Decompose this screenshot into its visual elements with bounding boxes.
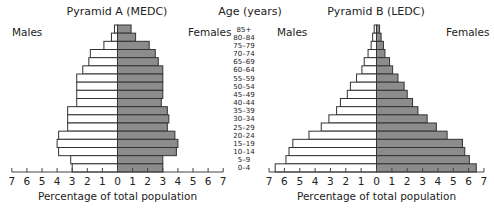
x-tick-label: 1: [129, 175, 136, 187]
x-tick-label: 3: [419, 175, 426, 187]
age-group-label: 85+: [237, 26, 252, 34]
males-label: Males: [277, 26, 307, 38]
male-bar: [90, 50, 117, 58]
male-bar: [347, 90, 376, 98]
male-bar: [293, 139, 377, 147]
female-bar: [377, 139, 463, 147]
age-group-label: 80–84: [233, 34, 255, 42]
male-bar: [111, 33, 117, 41]
age-group-label: 55–59: [233, 75, 254, 83]
age-group-label: 45–49: [233, 91, 254, 99]
female-bar: [118, 131, 175, 139]
male-bar: [59, 131, 118, 139]
x-tick-label: 0: [114, 175, 121, 187]
female-bar: [377, 131, 448, 139]
x-tick-label: 5: [39, 175, 46, 187]
female-bar: [118, 50, 156, 58]
female-bar: [377, 66, 393, 74]
female-bar: [118, 107, 168, 115]
female-bar: [118, 90, 163, 98]
female-bar: [118, 164, 163, 172]
female-bar: [377, 33, 382, 41]
male-bar: [371, 41, 376, 49]
females-label: Females: [446, 26, 489, 38]
age-group-label: 40–44: [233, 99, 255, 107]
female-bar: [118, 115, 169, 123]
x-tick-label: 5: [296, 175, 303, 187]
male-bar: [77, 82, 118, 90]
x-tick-label: 6: [205, 175, 212, 187]
female-bar: [377, 58, 390, 66]
age-axis-title: Age (years): [218, 5, 282, 18]
male-bar: [309, 131, 377, 139]
female-bar: [377, 148, 465, 156]
male-bar: [104, 41, 118, 49]
male-bar: [72, 164, 117, 172]
x-tick-label: 4: [435, 175, 442, 187]
x-tick-label: 7: [220, 175, 227, 187]
age-group-label: 15–19: [233, 140, 254, 148]
x-tick-label: 3: [69, 175, 76, 187]
male-bar: [68, 123, 118, 131]
female-bar: [377, 50, 385, 58]
male-bar: [77, 74, 118, 82]
x-tick-label: 2: [404, 175, 411, 187]
x-tick-label: 5: [450, 175, 457, 187]
age-group-label: 10–14: [233, 148, 255, 156]
male-bar: [368, 50, 376, 58]
female-bar: [377, 156, 470, 164]
male-bar: [59, 148, 118, 156]
pyramid-chart-canvas: Pyramid A (MEDC)MalesFemales765432101234…: [0, 0, 494, 213]
x-tick-label: 7: [8, 175, 15, 187]
age-group-label: 70–74: [233, 50, 255, 58]
female-bar: [118, 123, 168, 131]
age-group-label: 35–39: [233, 107, 254, 115]
male-bar: [350, 82, 376, 90]
females-label: Females: [188, 26, 231, 38]
female-bar: [118, 58, 159, 66]
female-bar: [377, 90, 408, 98]
female-bar: [118, 82, 163, 90]
age-group-label: 50–54: [233, 83, 255, 91]
female-bar: [118, 25, 132, 33]
x-tick-label: 5: [190, 175, 197, 187]
female-bar: [118, 148, 177, 156]
x-axis-title: Percentage of total population: [38, 190, 197, 202]
male-bar: [373, 33, 377, 41]
male-bar: [337, 107, 377, 115]
x-tick-label: 1: [389, 175, 396, 187]
x-tick-label: 0: [373, 175, 380, 187]
age-group-label: 20–24: [233, 132, 255, 140]
male-bar: [321, 123, 376, 131]
female-bar: [377, 74, 398, 82]
male-bar: [289, 148, 376, 156]
x-tick-label: 4: [175, 175, 182, 187]
male-bar: [77, 90, 118, 98]
x-tick-label: 4: [54, 175, 61, 187]
male-bar: [364, 58, 376, 66]
age-group-label: 30–34: [233, 115, 255, 123]
x-tick-label: 2: [84, 175, 91, 187]
male-bar: [68, 115, 118, 123]
age-group-label: 65–69: [233, 58, 254, 66]
female-bar: [377, 25, 380, 33]
x-axis-title: Percentage of total population: [297, 190, 456, 202]
population-pyramids-figure: Pyramid A (MEDC) Pyramid B (LEDC) Age (y…: [0, 0, 494, 213]
pyramid-b-title: Pyramid B (LEDC): [327, 5, 425, 18]
male-bar: [83, 66, 118, 74]
age-group-label: 0–4: [238, 164, 251, 172]
female-bar: [118, 99, 162, 107]
female-bar: [377, 107, 418, 115]
x-tick-label: 7: [481, 175, 488, 187]
x-tick-label: 2: [342, 175, 349, 187]
x-tick-label: 6: [465, 175, 472, 187]
age-group-label: 5–9: [238, 156, 250, 164]
female-bar: [377, 99, 413, 107]
female-bar: [118, 139, 178, 147]
x-tick-label: 1: [99, 175, 106, 187]
pyramid-a-title: Pyramid A (MEDC): [67, 5, 168, 18]
x-tick-label: 7: [266, 175, 273, 187]
age-group-label: 75–79: [233, 42, 254, 50]
x-tick-label: 2: [144, 175, 151, 187]
x-tick-label: 6: [24, 175, 31, 187]
